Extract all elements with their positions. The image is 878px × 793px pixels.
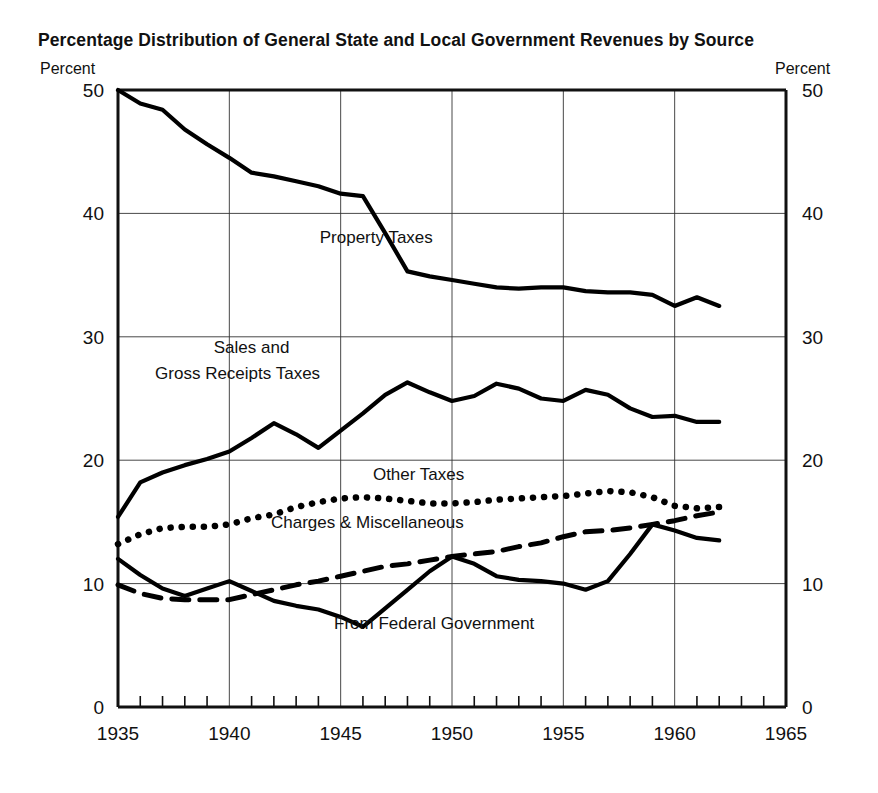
chart-container: Percentage Distribution of General State… (0, 0, 878, 793)
y-tick-label-right: 10 (802, 574, 823, 595)
x-tick-label: 1960 (654, 723, 696, 744)
y-tick-label-right: 0 (802, 697, 813, 718)
series-line (118, 382, 719, 517)
series-label: Sales and (214, 338, 290, 357)
y-tick-label-left: 20 (83, 450, 104, 471)
x-tick-label: 1965 (765, 723, 807, 744)
series-annotations: Property TaxesSales andGross Receipts Ta… (155, 228, 535, 633)
y-tick-label-left: 10 (83, 574, 104, 595)
data-series (118, 90, 719, 627)
y-axis-tick-labels-right: 01020304050 (802, 80, 823, 718)
y-tick-label-right: 50 (802, 80, 823, 101)
x-tick-label: 1940 (208, 723, 250, 744)
y-tick-label-right: 20 (802, 450, 823, 471)
chart-svg: 01020304050 01020304050 1935194019451950… (0, 0, 878, 793)
y-tick-label-left: 50 (83, 80, 104, 101)
x-axis-tick-labels: 1935194019451950195519601965 (97, 723, 807, 744)
y-tick-label-right: 40 (802, 203, 823, 224)
series-label: Property Taxes (320, 228, 433, 247)
x-tick-label: 1945 (320, 723, 362, 744)
x-tick-label: 1935 (97, 723, 139, 744)
series-label: From Federal Government (334, 614, 535, 633)
y-tick-label-left: 0 (93, 697, 104, 718)
x-tick-label: 1955 (542, 723, 584, 744)
y-tick-label-left: 30 (83, 327, 104, 348)
y-tick-label-left: 40 (83, 203, 104, 224)
series-label: Other Taxes (373, 465, 464, 484)
series-label: Gross Receipts Taxes (155, 364, 320, 383)
series-label: Charges & Miscellaneous (271, 513, 464, 532)
y-axis-tick-labels-left: 01020304050 (83, 80, 104, 718)
series-line (118, 90, 719, 306)
y-tick-label-right: 30 (802, 327, 823, 348)
series-line (118, 524, 719, 626)
x-tick-label: 1950 (431, 723, 473, 744)
